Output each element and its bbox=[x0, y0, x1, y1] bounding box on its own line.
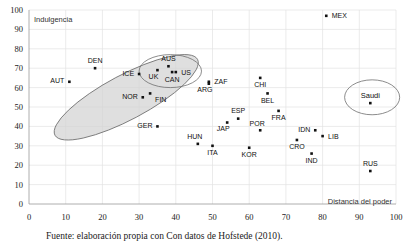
data-point-lib bbox=[321, 135, 324, 138]
point-label-den: DEN bbox=[88, 57, 103, 64]
x-tick-0: 0 bbox=[27, 212, 31, 222]
point-label-uk: UK bbox=[149, 73, 159, 80]
y-tick-100: 100 bbox=[10, 5, 23, 15]
x-tick-100: 100 bbox=[390, 212, 403, 222]
data-point-jap bbox=[226, 121, 229, 124]
point-label-por: POR bbox=[250, 120, 265, 127]
data-point-cro bbox=[296, 139, 299, 142]
data-point-us bbox=[175, 71, 178, 74]
data-point-den bbox=[94, 67, 97, 70]
point-label-chi: CHI bbox=[254, 81, 266, 88]
point-label-us: US bbox=[181, 69, 191, 76]
point-label-cro: CRO bbox=[289, 143, 305, 150]
x-tick-80: 80 bbox=[318, 212, 327, 222]
data-point-por bbox=[259, 129, 262, 132]
x-tick-20: 20 bbox=[98, 212, 107, 222]
point-label-zaf: ZAF bbox=[214, 78, 227, 85]
y-tick-90: 90 bbox=[15, 24, 24, 34]
y-tick-30: 30 bbox=[15, 141, 24, 151]
y-axis-title: Indulgencia bbox=[34, 15, 73, 24]
point-label-nor: NOR bbox=[122, 93, 138, 100]
data-point-aut bbox=[68, 80, 71, 83]
data-point-kor bbox=[248, 146, 251, 149]
data-point-ger bbox=[156, 125, 159, 128]
source-note: Fuente: elaboración propia con Con datos… bbox=[46, 231, 283, 241]
point-label-mex: MEX bbox=[332, 12, 348, 19]
data-point-saudi bbox=[369, 102, 372, 105]
point-label-ice: ICE bbox=[122, 70, 134, 77]
data-point-nor bbox=[141, 96, 144, 99]
point-label-jap: JAP bbox=[217, 125, 230, 132]
data-point-rus bbox=[369, 170, 372, 173]
data-point-fra bbox=[277, 110, 280, 113]
y-tick-80: 80 bbox=[15, 44, 24, 54]
point-label-hun: HUN bbox=[187, 133, 202, 140]
point-label-ita: ITA bbox=[207, 149, 218, 156]
x-tick-30: 30 bbox=[135, 212, 144, 222]
point-label-aut: AUT bbox=[50, 77, 65, 84]
data-point-chi bbox=[259, 77, 262, 80]
scatter-plot: AUTDENICENORFINGERUKAUSCANUSHUNITAZAFARG… bbox=[0, 0, 408, 247]
point-label-arg: ARG bbox=[197, 86, 212, 93]
y-tick-0: 0 bbox=[19, 199, 23, 209]
data-point-hun bbox=[197, 143, 200, 146]
point-label-kor: KOR bbox=[242, 151, 257, 158]
x-tick-50: 50 bbox=[208, 212, 217, 222]
point-label-ger: GER bbox=[137, 122, 152, 129]
data-point-esp bbox=[237, 117, 240, 120]
x-tick-70: 70 bbox=[282, 212, 291, 222]
data-point-ita bbox=[211, 145, 214, 148]
data-point-ice bbox=[138, 73, 141, 76]
y-tick-40: 40 bbox=[15, 121, 24, 131]
y-tick-20: 20 bbox=[15, 160, 24, 170]
point-label-idn: IDN bbox=[298, 126, 310, 133]
x-tick-10: 10 bbox=[61, 212, 70, 222]
y-tick-10: 10 bbox=[15, 180, 24, 190]
point-label-fra: FRA bbox=[272, 114, 286, 121]
data-point-idn bbox=[314, 129, 317, 132]
point-label-esp: ESP bbox=[231, 107, 245, 114]
data-point-ind bbox=[310, 152, 313, 155]
data-point-bel bbox=[266, 92, 269, 95]
data-point-mex bbox=[325, 15, 328, 18]
point-label-fin: FIN bbox=[155, 96, 166, 103]
data-point-aus bbox=[167, 65, 170, 68]
x-tick-90: 90 bbox=[355, 212, 364, 222]
y-tick-60: 60 bbox=[15, 83, 24, 93]
point-label-can: CAN bbox=[165, 76, 180, 83]
data-point-can bbox=[171, 71, 174, 74]
point-label-saudi: Saudi bbox=[361, 91, 381, 100]
point-label-ind: IND bbox=[306, 157, 318, 164]
y-tick-50: 50 bbox=[15, 102, 24, 112]
x-tick-60: 60 bbox=[245, 212, 254, 222]
x-tick-40: 40 bbox=[172, 212, 181, 222]
chart-container: AUTDENICENORFINGERUKAUSCANUSHUNITAZAFARG… bbox=[0, 0, 408, 247]
data-point-uk bbox=[156, 69, 159, 72]
x-axis-title: Distancia del poder bbox=[328, 197, 393, 206]
point-label-bel: BEL bbox=[261, 97, 274, 104]
data-point-fin bbox=[149, 92, 152, 95]
point-label-aus: AUS bbox=[161, 55, 176, 62]
point-label-rus: RUS bbox=[363, 160, 378, 167]
point-label-lib: LIB bbox=[328, 133, 339, 140]
y-tick-70: 70 bbox=[15, 63, 24, 73]
data-point-arg bbox=[208, 82, 211, 85]
